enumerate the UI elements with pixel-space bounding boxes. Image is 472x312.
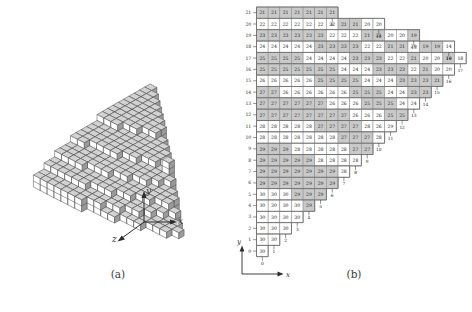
svg-text:22: 22 (306, 22, 312, 27)
svg-text:28: 28 (294, 135, 300, 140)
svg-text:29: 29 (306, 158, 312, 163)
panel-a-caption: (a) (0, 268, 236, 280)
svg-text:19: 19 (446, 56, 452, 61)
svg-text:19: 19 (411, 33, 417, 38)
svg-text:0: 0 (261, 261, 264, 266)
svg-text:y: y (236, 238, 242, 246)
svg-text:26: 26 (329, 101, 335, 106)
svg-text:26: 26 (364, 113, 370, 118)
svg-text:25: 25 (364, 101, 370, 106)
svg-text:29: 29 (259, 181, 265, 186)
svg-text:29: 29 (306, 169, 312, 174)
svg-text:29: 29 (318, 181, 324, 186)
svg-text:23: 23 (283, 33, 289, 38)
svg-text:21: 21 (318, 10, 324, 15)
svg-text:27: 27 (364, 147, 370, 152)
svg-text:22: 22 (399, 56, 405, 61)
svg-text:10: 10 (245, 135, 251, 140)
svg-text:26: 26 (271, 78, 277, 83)
svg-text:30: 30 (271, 237, 277, 242)
svg-text:20: 20 (446, 67, 452, 72)
svg-text:27: 27 (259, 113, 265, 118)
svg-text:3: 3 (296, 227, 299, 232)
svg-text:28: 28 (329, 147, 335, 152)
svg-text:24: 24 (411, 101, 417, 106)
svg-text:26: 26 (341, 101, 347, 106)
svg-text:22: 22 (341, 33, 347, 38)
svg-text:29: 29 (283, 147, 289, 152)
svg-text:21: 21 (259, 10, 265, 15)
svg-text:30: 30 (259, 192, 265, 197)
svg-text:25: 25 (283, 67, 289, 72)
svg-text:17: 17 (245, 56, 251, 61)
svg-text:16: 16 (245, 67, 251, 72)
svg-text:7: 7 (343, 181, 346, 186)
svg-text:28: 28 (353, 158, 359, 163)
svg-text:29: 29 (306, 181, 312, 186)
svg-text:30: 30 (283, 215, 289, 220)
svg-text:28: 28 (341, 169, 347, 174)
svg-text:5: 5 (319, 204, 322, 209)
svg-text:28: 28 (341, 158, 347, 163)
svg-text:20: 20 (364, 22, 370, 27)
svg-text:22: 22 (388, 56, 394, 61)
svg-text:30: 30 (259, 215, 265, 220)
svg-text:20: 20 (399, 33, 405, 38)
svg-text:23: 23 (353, 56, 359, 61)
svg-text:21: 21 (271, 10, 277, 15)
svg-text:28: 28 (376, 135, 382, 140)
svg-text:6: 6 (248, 180, 251, 185)
svg-text:21: 21 (353, 22, 359, 27)
svg-text:29: 29 (271, 147, 277, 152)
svg-text:29: 29 (271, 181, 277, 186)
svg-text:23: 23 (329, 44, 335, 49)
svg-text:21: 21 (329, 10, 335, 15)
svg-text:23: 23 (259, 33, 265, 38)
svg-text:24: 24 (388, 78, 394, 83)
svg-text:27: 27 (341, 113, 347, 118)
svg-text:25: 25 (341, 78, 347, 83)
svg-text:21: 21 (245, 10, 251, 15)
svg-text:8: 8 (354, 170, 357, 175)
svg-text:23: 23 (388, 67, 394, 72)
svg-text:28: 28 (318, 158, 324, 163)
svg-text:25: 25 (376, 90, 382, 95)
svg-text:3: 3 (248, 214, 251, 219)
svg-text:1: 1 (248, 237, 251, 242)
svg-text:24: 24 (364, 67, 370, 72)
svg-text:29: 29 (283, 169, 289, 174)
svg-text:2: 2 (284, 238, 287, 243)
svg-text:30: 30 (294, 215, 300, 220)
svg-text:29: 29 (329, 169, 335, 174)
svg-text:29: 29 (294, 158, 300, 163)
svg-text:20: 20 (411, 44, 417, 49)
svg-text:25: 25 (329, 78, 335, 83)
svg-text:0: 0 (248, 249, 251, 254)
svg-text:25: 25 (294, 56, 300, 61)
svg-text:29: 29 (259, 158, 265, 163)
svg-text:26: 26 (376, 124, 382, 129)
svg-text:27: 27 (353, 135, 359, 140)
svg-text:21: 21 (341, 22, 347, 27)
figure-root: y x z (a) 212121212121212162222222222222… (0, 0, 472, 312)
svg-text:30: 30 (259, 249, 265, 254)
svg-text:2: 2 (248, 226, 251, 231)
svg-text:24: 24 (388, 90, 394, 95)
svg-text:21: 21 (283, 10, 289, 15)
svg-text:24: 24 (329, 56, 335, 61)
svg-text:21: 21 (376, 33, 382, 38)
svg-text:13: 13 (245, 101, 251, 106)
svg-text:23: 23 (318, 44, 324, 49)
svg-text:27: 27 (329, 113, 335, 118)
panel-a-isometric-blocks: y x z (a) (0, 0, 236, 312)
svg-text:23: 23 (399, 78, 405, 83)
svg-text:24: 24 (306, 44, 312, 49)
svg-text:4: 4 (248, 203, 251, 208)
svg-text:27: 27 (364, 135, 370, 140)
axis-label-y-a: y (146, 186, 151, 196)
svg-text:27: 27 (259, 101, 265, 106)
svg-text:12: 12 (245, 112, 251, 117)
svg-text:24: 24 (306, 56, 312, 61)
svg-text:27: 27 (341, 124, 347, 129)
svg-text:25: 25 (399, 113, 405, 118)
